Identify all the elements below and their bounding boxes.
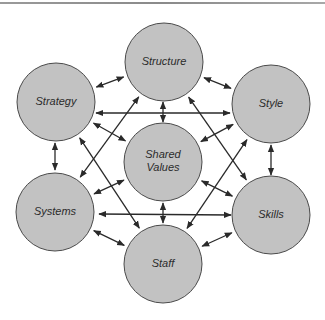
- node-shared-values: SharedValues: [124, 123, 202, 201]
- node-label: Skills: [258, 208, 284, 220]
- node-label: Systems: [34, 205, 77, 217]
- arrow-strategy-shared-values: [94, 123, 126, 141]
- arrow-style-shared-values: [201, 124, 233, 141]
- node-label: Values: [146, 161, 180, 173]
- node-structure: Structure: [125, 23, 203, 101]
- node-skills: Skills: [232, 176, 310, 254]
- arrow-structure-style: [204, 78, 231, 89]
- node-label: Strategy: [36, 95, 78, 107]
- seven-s-diagram: StructureStrategyStyleSharedValuesSystem…: [0, 0, 325, 320]
- arrow-systems-skills: [99, 214, 231, 215]
- node-label: Structure: [142, 55, 187, 67]
- arrow-structure-strategy: [96, 77, 123, 87]
- node-staff: Staff: [124, 225, 202, 303]
- node-label: Shared: [145, 148, 181, 160]
- node-label: Style: [259, 97, 283, 109]
- arrow-skills-staff: [202, 233, 232, 246]
- node-systems: Systems: [16, 173, 94, 251]
- node-label: Staff: [152, 257, 176, 269]
- arrow-systems-staff: [94, 231, 125, 246]
- nodes-layer: StructureStrategyStyleSharedValuesSystem…: [16, 23, 310, 303]
- node-style: Style: [232, 65, 310, 143]
- node-strategy: Strategy: [17, 63, 95, 141]
